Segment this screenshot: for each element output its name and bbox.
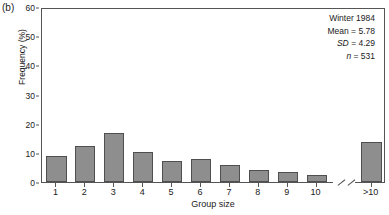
sd-symbol: SD: [337, 38, 349, 48]
bar: [361, 142, 381, 182]
bar: [249, 170, 269, 182]
bar: [75, 146, 95, 182]
y-tick-label: 50: [26, 33, 35, 42]
bar: [133, 152, 153, 182]
x-tick-label: 10: [311, 187, 321, 197]
x-tick-label: 1: [53, 187, 58, 197]
figure-panel-b: (b) Frequency (%) 0102030405060 12345678…: [0, 0, 389, 215]
bar: [307, 175, 327, 182]
n-value: = 531: [351, 51, 375, 61]
x-tick-label: 9: [284, 187, 289, 197]
bar: [191, 159, 211, 182]
y-tick-mark: [36, 124, 39, 125]
y-tick-mark: [36, 95, 39, 96]
bar: [278, 172, 298, 182]
y-tick-label: 60: [26, 4, 35, 13]
y-tick-mark: [36, 66, 39, 67]
x-tick-label: 8: [255, 187, 260, 197]
y-tick-mark: [36, 183, 39, 184]
x-tick-label: 5: [169, 187, 174, 197]
y-tick-label: 20: [26, 120, 35, 129]
y-tick-mark: [36, 8, 39, 9]
bar: [104, 133, 124, 182]
annotation-mean: Mean = 5.78: [328, 25, 376, 38]
statistics-annotation: Winter 1984 Mean = 5.78 SD = 4.29 n = 53…: [328, 12, 376, 62]
annotation-sd: SD = 4.29: [328, 37, 376, 50]
x-tick-label: 6: [197, 187, 202, 197]
x-tick-label: >10: [363, 187, 378, 197]
annotation-n: n = 531: [328, 50, 376, 63]
annotation-season: Winter 1984: [328, 12, 376, 25]
x-tick-label: 3: [111, 187, 116, 197]
bar: [46, 156, 66, 182]
x-axis-ticks: 12345678910>10: [41, 183, 385, 199]
sd-value: = 4.29: [349, 38, 375, 48]
x-axis-label: Group size: [41, 199, 385, 209]
x-tick-label: 2: [82, 187, 87, 197]
bar: [220, 165, 240, 182]
panel-label: (b): [2, 2, 14, 13]
x-tick-label: 4: [140, 187, 145, 197]
y-tick-label: 10: [26, 150, 35, 159]
y-tick-label: 0: [30, 179, 35, 188]
y-tick-label: 40: [26, 62, 35, 71]
x-tick-label: 7: [226, 187, 231, 197]
y-tick-mark: [36, 37, 39, 38]
y-axis-ticks: 0102030405060: [18, 8, 35, 183]
bar: [162, 161, 182, 182]
y-tick-label: 30: [26, 91, 35, 100]
y-tick-mark: [36, 153, 39, 154]
